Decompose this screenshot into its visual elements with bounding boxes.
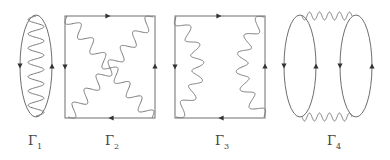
arrow-down-icon [281,63,286,68]
photon-propagator [302,113,352,121]
arrow-left-icon [108,115,113,120]
label-symbol: Γ [28,133,37,148]
arrow-up-icon [313,63,318,68]
fermion-loop [175,16,265,118]
label-subscript: 1 [37,142,42,151]
arrow-up-icon [262,63,267,68]
arrow-down-icon [337,63,342,68]
fermion-loop [340,15,372,117]
photon-propagator [28,16,44,116]
arrow-down-icon [172,64,177,69]
arrow-up-icon [369,63,374,68]
photon-propagator [302,12,352,20]
label-gamma2: Γ2 [105,133,119,151]
arrow-up-icon [49,63,54,68]
label-symbol: Γ [327,133,336,148]
arrow-up-icon [152,63,157,68]
label-subscript: 3 [224,142,229,151]
label-subscript: 2 [114,142,119,151]
photon-propagator [236,16,265,117]
diagram-gamma3 [172,13,267,120]
label-gamma4: Γ4 [327,133,341,151]
label-symbol: Γ [215,133,224,148]
diagram-gamma4 [281,12,374,121]
label-symbol: Γ [105,133,114,148]
label-gamma3: Γ3 [215,133,229,151]
diagram-gamma1 [17,15,54,117]
label-subscript: 4 [336,142,341,151]
fermion-loop [284,15,316,117]
arrow-right-icon [105,13,110,18]
arrow-left-icon [218,115,223,120]
arrow-down-icon [62,64,67,69]
photon-propagator [174,17,203,118]
diagram-gamma2 [62,13,157,120]
arrow-down-icon [17,63,22,68]
label-gamma1: Γ1 [28,133,42,151]
arrow-right-icon [216,13,221,18]
